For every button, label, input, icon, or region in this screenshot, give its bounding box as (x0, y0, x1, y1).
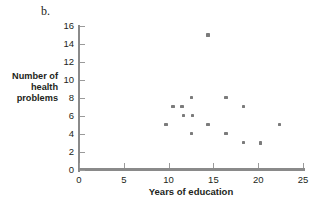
y-tick-label: 14 (56, 39, 74, 49)
x-axis-title: Years of education (79, 187, 303, 197)
x-tick-label: 25 (293, 175, 313, 185)
data-point (190, 132, 193, 135)
panel-letter: b. (41, 5, 50, 17)
y-tick-label: 4 (56, 129, 74, 139)
y-tick-label: 12 (56, 57, 74, 67)
y-tick-label: 8 (56, 93, 74, 103)
data-point (259, 141, 262, 144)
x-tick-label: 0 (69, 175, 89, 185)
data-point (242, 105, 245, 108)
scatter-plot-figure: b. Number of health problems Years of ed… (0, 0, 324, 206)
data-point (224, 96, 227, 99)
y-tick-label: 2 (56, 147, 74, 157)
data-point (206, 123, 209, 126)
x-tick-label: 10 (159, 175, 179, 185)
data-point (206, 33, 209, 36)
data-point (278, 123, 281, 126)
data-point (191, 114, 194, 117)
data-point (164, 123, 167, 126)
plot-area (79, 26, 303, 170)
data-point (224, 132, 227, 135)
x-tick-label: 15 (203, 175, 223, 185)
data-point (171, 105, 174, 108)
data-point (190, 96, 193, 99)
data-point (180, 105, 183, 108)
y-axis-title: Number of health problems (0, 71, 58, 105)
data-point (182, 114, 185, 117)
y-tick-label: 6 (56, 111, 74, 121)
y-tick-label: 16 (56, 21, 74, 31)
y-axis-title-line-2: health (0, 82, 58, 93)
y-tick-mark (80, 170, 85, 171)
y-axis-title-line-1: Number of (0, 71, 58, 82)
x-tick-label: 5 (114, 175, 134, 185)
data-point (242, 141, 245, 144)
y-tick-label: 10 (56, 75, 74, 85)
y-axis-title-line-3: problems (0, 93, 58, 104)
y-tick-label: 0 (56, 165, 74, 175)
x-tick-mark (303, 163, 304, 168)
x-tick-label: 20 (248, 175, 268, 185)
